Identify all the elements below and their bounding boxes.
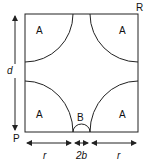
dimension-label-2b: 2b bbox=[75, 150, 88, 161]
label-b: B bbox=[77, 112, 84, 123]
label-a-top-right: A bbox=[119, 25, 126, 36]
corner-label-p: P bbox=[13, 133, 20, 144]
semicircle-b bbox=[73, 124, 90, 132]
geometry-diagram: A A A A B R P d r 2b r bbox=[0, 0, 145, 166]
quarter-arc-bottom-right bbox=[90, 81, 138, 132]
label-a-bottom-right: A bbox=[119, 109, 126, 120]
label-a-top-left: A bbox=[36, 25, 43, 36]
dimension-label-d: d bbox=[7, 65, 13, 76]
quarter-arc-bottom-left bbox=[25, 81, 73, 132]
corner-label-r: R bbox=[136, 2, 143, 13]
dimension-label-r-left: r bbox=[43, 150, 47, 161]
label-a-bottom-left: A bbox=[36, 109, 43, 120]
quarter-arc-top-right bbox=[90, 14, 138, 62]
quarter-arc-top-left bbox=[25, 14, 73, 62]
dimension-label-r-right: r bbox=[117, 150, 121, 161]
